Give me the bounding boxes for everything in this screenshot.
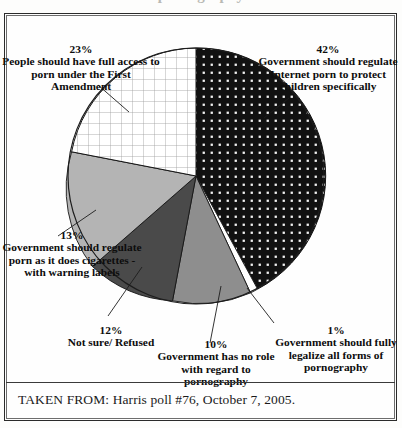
clipped-title-text: pornography <box>0 0 402 4</box>
pie-label-42-pct: 42% <box>256 43 400 55</box>
pie-label-13-pct: 13% <box>2 229 142 241</box>
pie-label-12: 12% Not sure/ Refused <box>62 324 160 349</box>
clipped-title: pornography <box>0 0 402 14</box>
pie-label-12-text: Not sure/ Refused <box>62 336 160 348</box>
figure-page: pornography <box>0 0 402 428</box>
pie-label-1-text: Government should fully legalize all for… <box>272 336 400 373</box>
pie-label-10: 10% Government has no role with regard t… <box>152 338 280 388</box>
source-caption: TAKEN FROM: Harris poll #76, October 7, … <box>18 392 388 408</box>
pie-label-23-pct: 23% <box>2 43 160 55</box>
pie-label-42-text: Government should regulate Internet porn… <box>256 55 400 92</box>
pie-label-1: 1% Government should fully legalize all … <box>272 324 400 374</box>
caption-divider <box>6 382 395 383</box>
pie-label-13: 13% Government should regulate porn as i… <box>2 229 142 279</box>
pie-label-13-text: Government should regulate porn as it do… <box>2 241 142 278</box>
pie-label-23-text: People should have full access to porn u… <box>2 55 160 92</box>
pie-chart: 23% People should have full access to po… <box>0 13 402 375</box>
pie-label-42: 42% Government should regulate Internet … <box>256 43 400 93</box>
leader-line-1 <box>247 288 274 323</box>
pie-label-1-pct: 1% <box>272 324 400 336</box>
pie-label-10-pct: 10% <box>152 338 280 350</box>
pie-label-12-pct: 12% <box>62 324 160 336</box>
pie-label-23: 23% People should have full access to po… <box>2 43 160 93</box>
